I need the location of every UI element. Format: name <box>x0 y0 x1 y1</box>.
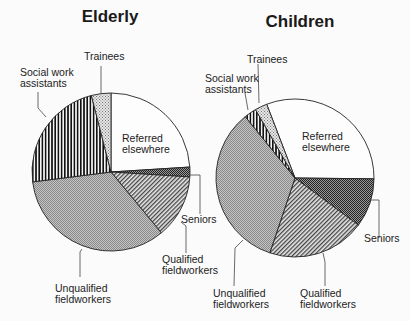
children-title: Children <box>250 12 350 32</box>
elderly-label-trainees: Trainees <box>84 51 124 62</box>
leader-children-qualified <box>323 253 325 286</box>
children-label-unqualified-2: fieldworkers <box>213 299 269 310</box>
children-label-seniors: Seniors <box>364 233 400 244</box>
leader-elderly-unqualified <box>80 249 82 277</box>
elderly-label-seniors: Seniors <box>181 214 217 225</box>
children-label-swa-2: assistants <box>205 84 252 95</box>
leader-elderly-qualified <box>181 222 186 253</box>
elderly-label-qualified-2: fieldworkers <box>162 265 218 276</box>
leader-elderly-seniors <box>190 175 200 214</box>
pie-elderly <box>32 93 190 251</box>
children-label-qualified-2: fieldworkers <box>300 299 356 310</box>
elderly-label-unqualified-2: fieldworkers <box>55 294 111 305</box>
leader-children-swa <box>245 93 248 110</box>
pie-children <box>216 99 374 257</box>
elderly-label-swa-2: assistants <box>20 78 67 89</box>
leader-children-unqualified <box>234 240 243 286</box>
elderly-title: Elderly <box>60 7 160 27</box>
children-label-trainees: Trainees <box>247 54 287 65</box>
leader-elderly-swa <box>38 92 46 117</box>
children-label-referred-2: elsewhere <box>302 142 350 153</box>
elderly-label-referred-2: elsewhere <box>122 144 170 155</box>
